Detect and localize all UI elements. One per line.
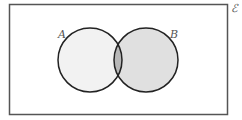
universal-set-label: ℰ: [231, 2, 239, 15]
venn-diagram: A B ℰ: [0, 0, 242, 120]
set-b-label: B: [169, 28, 178, 41]
set-a-label: A: [57, 28, 66, 41]
